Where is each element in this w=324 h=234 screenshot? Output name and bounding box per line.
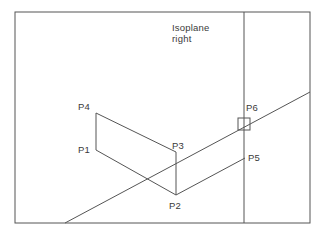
point-label-p6: P6 — [246, 102, 258, 113]
point-label-p2: P2 — [169, 200, 181, 211]
isometric-diagram: Isoplane right P1 P2 P3 P4 P5 P6 — [0, 0, 324, 234]
lower-parallel-line — [176, 158, 245, 195]
isoplane-title-line1: Isoplane — [172, 22, 210, 33]
edge-p1-p2 — [96, 150, 176, 195]
drawing-frame — [15, 12, 310, 223]
point-label-p1: P1 — [78, 144, 90, 155]
point-label-p4: P4 — [78, 101, 90, 112]
point-label-p5: P5 — [248, 152, 260, 163]
edge-p4-p3 — [96, 113, 176, 152]
diagram-canvas: Isoplane right P1 P2 P3 P4 P5 P6 — [0, 0, 324, 234]
point-label-p3: P3 — [172, 140, 184, 151]
isoplane-title-line2: right — [172, 33, 192, 44]
main-diagonal-line — [65, 92, 310, 223]
